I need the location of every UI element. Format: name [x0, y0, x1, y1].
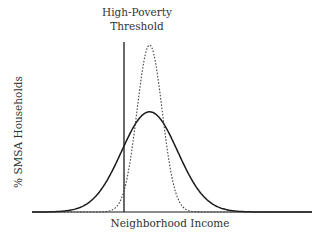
y-axis-label: % SMSA Households: [12, 72, 24, 192]
threshold-label-line2: Threshold: [90, 19, 184, 33]
solid-distribution-curve: [32, 112, 312, 212]
threshold-label-line1: High-Poverty: [90, 5, 184, 19]
dotted-distribution-curve: [32, 45, 312, 212]
distribution-chart: [0, 0, 330, 236]
x-axis-label: Neighborhood Income: [100, 217, 240, 229]
threshold-label: High-Poverty Threshold: [90, 5, 184, 33]
